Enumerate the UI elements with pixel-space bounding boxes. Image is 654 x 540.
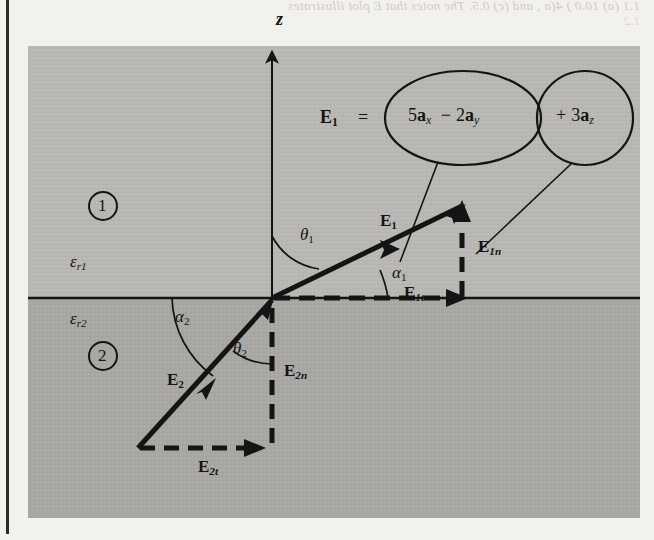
figure-page: 1.1 (a) 10.0 ) 4(a , and (c) 0.5. The no… <box>0 0 654 540</box>
e1t-base: E <box>404 283 415 302</box>
e1t-label: E1t <box>404 284 424 303</box>
callout-lead-subscript: 1 <box>332 115 338 129</box>
region-2-badge-number: 2 <box>98 347 107 364</box>
e2t-base: E <box>198 457 209 476</box>
region-2-fill <box>28 298 640 518</box>
e2t-subscript: 2t <box>209 465 218 477</box>
permittivity-region-1-subscript: r1 <box>77 260 87 272</box>
theta1-subscript: 1 <box>308 233 314 245</box>
alpha2-subscript: 2 <box>184 315 190 327</box>
region-1-fill <box>28 46 640 298</box>
e1-base: E <box>380 211 391 230</box>
bubble-t-operator: − <box>441 105 451 125</box>
bubble-t-coef1: 5 <box>408 105 417 125</box>
bubble-n-unit-subscript: z <box>589 113 594 127</box>
region-1-badge-number: 1 <box>98 197 107 214</box>
bubble-t-unit1-subscript: x <box>426 113 431 127</box>
callout-bubble-normal-content: +3az <box>556 106 594 127</box>
callout-equals-sign: = <box>358 108 368 126</box>
callout-lead-label: E1 <box>320 108 338 129</box>
callout-bubble-tangential-content: 5ax −2ay <box>408 106 479 127</box>
e1n-base: E <box>478 237 489 256</box>
alpha2-symbol: α <box>175 307 184 326</box>
bleed-through-text-line2: 1.2 <box>40 14 640 29</box>
dielectric-interface-figure: z 1 2 εr1 εr2 θ1 α1 α2 θ2 E1 E1t E1n <box>28 46 640 518</box>
theta2-label: θ2 <box>233 340 247 359</box>
bubble-t-unit2-subscript: y <box>474 113 479 127</box>
e2-subscript: 2 <box>178 378 184 390</box>
e2n-label: E2n <box>284 362 307 381</box>
bubble-n-operator: + <box>556 105 566 125</box>
e2-base: E <box>167 370 178 389</box>
callout-lead-base: E <box>320 107 332 127</box>
e2n-base: E <box>284 361 295 380</box>
alpha1-subscript: 1 <box>401 271 407 283</box>
theta2-subscript: 2 <box>241 347 247 359</box>
bleed-through-text-line1: 1.1 (a) 10.0 ) 4(a , and (c) 0.5. The no… <box>40 0 640 14</box>
bubble-n-unit: a <box>580 105 589 125</box>
permittivity-region-2-symbol: ε <box>70 309 77 328</box>
page-edge-rule <box>6 0 9 534</box>
bubble-n-coef: 3 <box>571 105 580 125</box>
z-axis-label: z <box>276 10 283 28</box>
e1n-label: E1n <box>478 238 501 257</box>
permittivity-region-2-subscript: r2 <box>77 317 87 329</box>
alpha1-symbol: α <box>392 263 401 282</box>
e2t-label: E2t <box>198 458 218 477</box>
bubble-t-unit1: a <box>417 105 426 125</box>
bubble-t-unit2: a <box>465 105 474 125</box>
permittivity-region-1-symbol: ε <box>70 252 77 271</box>
theta1-label: θ1 <box>300 226 314 245</box>
alpha2-label: α2 <box>175 308 190 327</box>
alpha1-label: α1 <box>392 264 407 283</box>
e1n-subscript: 1n <box>489 245 501 257</box>
permittivity-region-1-label: εr1 <box>70 253 87 272</box>
e1t-subscript: 1t <box>415 291 424 303</box>
e2n-subscript: 2n <box>295 369 307 381</box>
e1-subscript: 1 <box>391 219 397 231</box>
e1-vector-label: E1 <box>380 212 397 231</box>
permittivity-region-2-label: εr2 <box>70 310 87 329</box>
e2-vector-label: E2 <box>167 371 184 390</box>
bubble-t-coef2: 2 <box>456 105 465 125</box>
